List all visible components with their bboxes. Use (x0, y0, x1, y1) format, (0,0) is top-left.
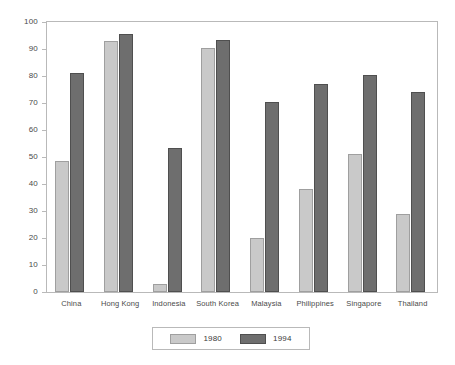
bar-1980-south-korea (201, 48, 215, 292)
bar-group (388, 22, 437, 292)
bar-group (193, 22, 242, 292)
bar-group (340, 22, 389, 292)
x-axis: ChinaHong KongIndonesiaSouth KoreaMalays… (47, 299, 437, 313)
bar-1980-china (55, 161, 69, 292)
y-axis-tick-label: 10 (4, 261, 38, 269)
x-axis-tick-label: Singapore (346, 299, 381, 308)
bar-group (145, 22, 194, 292)
bar-1994-thailand (411, 92, 425, 292)
legend-label-1980: 1980 (203, 335, 222, 343)
bar-1980-malaysia (250, 238, 264, 292)
bar-1980-philippines (299, 189, 313, 292)
y-axis-tick-label: 70 (4, 99, 38, 107)
y-axis-tick-label: 40 (4, 180, 38, 188)
x-axis-tick-label: Hong Kong (101, 299, 139, 308)
legend-entry-1994: 1994 (240, 334, 292, 344)
bar-1994-hong-kong (119, 34, 133, 292)
bar-chart: 1009080706050403020100 ChinaHong KongInd… (0, 0, 455, 365)
legend-swatch-1980 (170, 334, 196, 344)
x-axis-tick-label: Indonesia (152, 299, 185, 308)
bar-group (291, 22, 340, 292)
legend-label-1994: 1994 (273, 335, 292, 343)
bar-group (242, 22, 291, 292)
bars-layer (47, 22, 437, 292)
x-axis-tick-label: Thailand (398, 299, 428, 308)
y-axis: 1009080706050403020100 (0, 0, 46, 300)
bar-1980-singapore (348, 154, 362, 292)
y-axis-tick-label: 30 (4, 207, 38, 215)
x-axis-tick-label: Philippines (296, 299, 333, 308)
legend-entry-1980: 1980 (170, 334, 222, 344)
y-axis-tick-label: 50 (4, 153, 38, 161)
x-axis-tick-label: South Korea (196, 299, 239, 308)
x-axis-tick-label: China (61, 299, 81, 308)
bar-1994-south-korea (216, 40, 230, 292)
bar-group (47, 22, 96, 292)
y-axis-tick-label: 90 (4, 45, 38, 53)
bar-1994-malaysia (265, 102, 279, 292)
bar-1994-indonesia (168, 148, 182, 292)
legend-swatch-1994 (240, 334, 266, 344)
bar-1994-china (70, 73, 84, 292)
bar-group (96, 22, 145, 292)
y-axis-tick-label: 100 (4, 18, 38, 26)
y-axis-tick-label: 0 (4, 288, 38, 296)
x-axis-tick-label: Malaysia (251, 299, 281, 308)
y-axis-tick-label: 60 (4, 126, 38, 134)
bar-1980-indonesia (153, 284, 167, 292)
y-axis-tick-label: 80 (4, 72, 38, 80)
y-axis-tick-label: 20 (4, 234, 38, 242)
chart-legend: 19801994 (152, 327, 310, 350)
bar-1994-philippines (314, 84, 328, 292)
bar-1980-thailand (396, 214, 410, 292)
bar-1980-hong-kong (104, 41, 118, 292)
bar-1994-singapore (363, 75, 377, 292)
